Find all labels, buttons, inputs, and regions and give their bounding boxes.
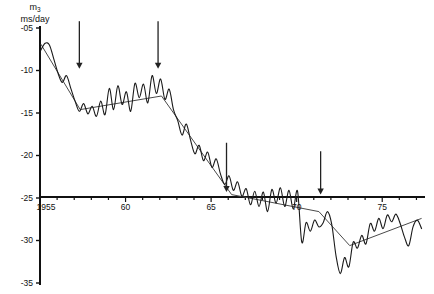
chart-canvas [0,0,434,294]
annotation-arrow-2 [155,21,161,69]
x-tick-label: 1955 [31,202,61,212]
annotation-arrow-4 [317,151,323,194]
x-tick-label: 70 [282,202,312,212]
y-tick-label: -05 [7,23,33,33]
observed-line-path [41,43,422,274]
x-tick-label: 65 [196,202,226,212]
chart-axes [40,26,425,285]
y-tick-label: -10 [7,65,33,75]
x-tick-label: 60 [111,202,141,212]
y-tick-label: -25 [7,193,33,203]
trend-line-path [41,44,422,245]
x-tick-label: 75 [367,202,397,212]
y-tick-label: -15 [7,108,33,118]
series-m3-trend [41,44,422,245]
y-tick-label: -35 [7,278,33,288]
y-tick-label: -30 [7,235,33,245]
annotation-arrow-1 [76,21,82,69]
figure-root: m3 ms/day -05-10-15-20-25-30-35 19556065… [0,0,434,294]
y-tick-label: -20 [7,150,33,160]
series-m3-observed [41,43,422,274]
